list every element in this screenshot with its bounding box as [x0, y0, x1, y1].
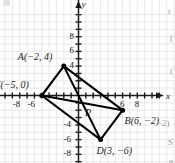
- margin-fragment-3: −2): [157, 118, 170, 128]
- y-tick-label-neg6: -6: [64, 135, 72, 144]
- y-axis-label: y: [82, 0, 86, 9]
- x-tick-label-neg6: -6: [27, 100, 35, 109]
- y-tick-label-neg8: -8: [64, 149, 72, 158]
- y-tick-label-neg4: -4: [64, 120, 72, 129]
- x-axis-label: x: [166, 92, 170, 101]
- x-tick-label-neg8: -8: [13, 100, 21, 109]
- margin-fragment-2: (: [170, 66, 173, 76]
- y-tick-label-6: 6: [70, 46, 75, 55]
- margin-fragment-0: r: [168, 6, 171, 16]
- point-label-b: B(6, −2): [125, 116, 160, 126]
- point-label-a: A(−2, 4): [18, 52, 53, 62]
- x-tick-label-6: 6: [120, 100, 125, 109]
- margin-fragment-5: a: [169, 156, 173, 163]
- y-tick-label-8: 8: [70, 32, 75, 41]
- y-tick-label-4: 4: [70, 61, 75, 70]
- point-label-c: C(−5, 0): [0, 80, 29, 90]
- x-tick-label-8: 8: [135, 100, 140, 109]
- margin-fragment-1: (: [170, 33, 173, 43]
- margin-fragment-4: S: [168, 137, 173, 147]
- figure-container: A(−2, 4)C(−5, 0)B(6, −2)D(3, −6)P -8-668…: [0, 0, 175, 163]
- point-label-p: P: [85, 108, 91, 118]
- point-label-d: D(3, −6): [97, 146, 133, 156]
